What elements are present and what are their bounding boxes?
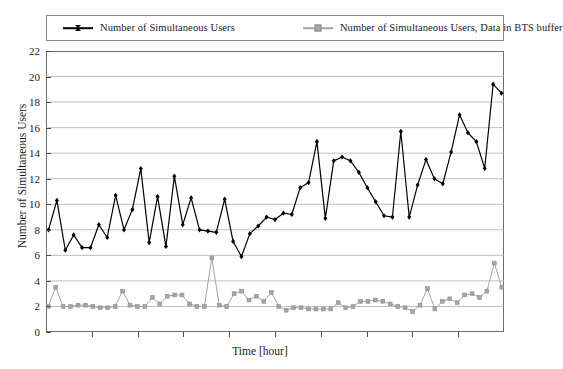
chart-legend: Number of Simultaneous Users Number of S…: [46, 15, 504, 41]
y-tick-mark: [46, 255, 51, 256]
data-point-marker-square: [418, 303, 422, 307]
data-point-marker-square: [314, 307, 318, 311]
data-point-marker-diamond: [223, 197, 227, 202]
data-point-marker-square: [470, 292, 474, 296]
data-point-marker-square: [113, 305, 117, 309]
data-point-marker-square: [98, 306, 102, 310]
y-tick-mark: [46, 306, 51, 307]
data-point-marker-square: [448, 297, 452, 301]
data-point-marker-square: [500, 285, 504, 289]
data-point-marker-diamond: [172, 174, 176, 179]
y-tick-mark: [46, 204, 51, 205]
y-tick-mark: [46, 179, 51, 180]
data-point-marker-square: [225, 305, 229, 309]
legend-label-series2: Number of Simultaneous Users, Data in BT…: [340, 22, 563, 34]
data-point-marker-square: [292, 306, 296, 310]
data-point-marker-square: [351, 305, 355, 309]
data-point-marker-diamond: [340, 154, 344, 159]
y-tick-mark: [46, 102, 51, 103]
x-tick-mark: [229, 332, 230, 337]
data-point-marker-square: [463, 293, 467, 297]
series-line: [48, 258, 502, 312]
data-point-marker-square: [158, 302, 162, 306]
x-tick-mark: [92, 332, 93, 337]
x-tick-mark: [458, 332, 459, 337]
series-bts-buffer: [46, 256, 503, 313]
y-tick-mark: [46, 281, 51, 282]
data-point-marker-square: [321, 307, 325, 311]
data-point-marker-square: [359, 299, 363, 303]
data-point-marker-square: [180, 293, 184, 297]
data-point-marker-square: [128, 303, 132, 307]
data-point-marker-square: [84, 303, 88, 307]
legend-marker-black-diamond-icon: [63, 22, 93, 34]
data-point-marker-diamond: [407, 214, 411, 219]
data-point-marker-diamond: [147, 240, 151, 245]
data-point-marker-diamond: [55, 198, 59, 203]
data-point-marker-square: [299, 306, 303, 310]
data-point-marker-square: [247, 298, 251, 302]
data-point-marker-diamond: [130, 207, 134, 212]
data-point-marker-square: [188, 302, 192, 306]
data-point-marker-diamond: [139, 166, 143, 171]
data-point-marker-square: [396, 305, 400, 309]
data-point-marker-square: [210, 256, 214, 260]
data-point-marker-diamond: [164, 244, 168, 249]
data-point-marker-diamond: [307, 180, 311, 185]
data-point-marker-diamond: [197, 227, 201, 232]
data-point-marker-diamond: [390, 214, 394, 219]
data-point-marker-diamond: [315, 139, 319, 144]
y-tick-mark: [46, 128, 51, 129]
legend-label-series1: Number of Simultaneous Users: [100, 22, 235, 34]
data-point-marker-square: [54, 285, 58, 289]
data-point-marker-square: [455, 301, 459, 305]
x-tick-mark: [367, 332, 368, 337]
data-point-marker-square: [403, 306, 407, 310]
x-tick-mark: [412, 332, 413, 337]
data-point-marker-square: [217, 303, 221, 307]
y-tick-mark: [46, 153, 51, 154]
y-tick-label: 0: [6, 327, 40, 338]
data-point-marker-square: [76, 303, 80, 307]
y-tick-label: 22: [6, 46, 40, 57]
data-point-marker-square: [202, 305, 206, 309]
data-point-marker-diamond: [483, 166, 487, 171]
x-tick-mark: [138, 332, 139, 337]
data-point-marker-square: [165, 294, 169, 298]
data-point-marker-square: [426, 287, 430, 291]
data-point-marker-square: [262, 299, 266, 303]
data-point-marker-square: [269, 291, 273, 295]
data-point-marker-square: [485, 289, 489, 293]
data-point-marker-square: [329, 307, 333, 311]
data-point-marker-square: [173, 293, 177, 297]
legend-entry-simultaneous-users: Number of Simultaneous Users: [63, 22, 235, 34]
legend-entry-bts-buffer: Number of Simultaneous Users, Data in BT…: [303, 22, 563, 34]
data-point-marker-square: [336, 301, 340, 305]
data-point-marker-diamond: [114, 193, 118, 198]
data-point-marker-diamond: [206, 228, 210, 233]
y-tick-label: 4: [6, 275, 40, 286]
series-simultaneous-users: [46, 82, 503, 260]
data-point-marker-square: [255, 294, 259, 298]
data-point-marker-square: [344, 306, 348, 310]
x-tick-mark: [321, 332, 322, 337]
y-tick-mark: [46, 332, 51, 333]
data-point-marker-diamond: [122, 227, 126, 232]
data-point-marker-square: [121, 289, 125, 293]
data-point-marker-square: [136, 305, 140, 309]
data-point-marker-square: [69, 305, 73, 309]
y-tick-label: 2: [6, 301, 40, 312]
data-point-marker-diamond: [181, 222, 185, 227]
data-point-marker-square: [284, 308, 288, 312]
data-point-marker-square: [61, 305, 65, 309]
data-point-marker-square: [478, 296, 482, 300]
data-point-marker-square: [232, 292, 236, 296]
y-axis-title: Number of Simultaneous Users: [16, 76, 28, 276]
data-point-marker-square: [433, 307, 437, 311]
data-point-marker-square: [195, 305, 199, 309]
data-point-marker-square: [411, 310, 415, 314]
data-point-marker-diamond: [416, 183, 420, 188]
data-point-marker-square: [388, 302, 392, 306]
data-point-marker-square: [373, 298, 377, 302]
